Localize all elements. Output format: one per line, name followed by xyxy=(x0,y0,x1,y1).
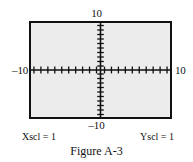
figure-a-3: 10 –10 10 –10 xyxy=(0,0,193,162)
yscl-note: Yscl = 1 xyxy=(140,131,174,142)
x-min-label: –10 xyxy=(1,65,28,76)
y-min-label: –10 xyxy=(0,120,193,131)
graphing-window-frame xyxy=(29,21,172,119)
coordinate-plane xyxy=(31,23,170,117)
scale-annotations: Xscl = 1 Yscl = 1 xyxy=(22,131,174,142)
y-max-label: 10 xyxy=(0,8,193,19)
x-max-label: 10 xyxy=(175,65,193,76)
figure-caption: Figure A-3 xyxy=(0,145,193,158)
xscl-note: Xscl = 1 xyxy=(22,131,56,142)
